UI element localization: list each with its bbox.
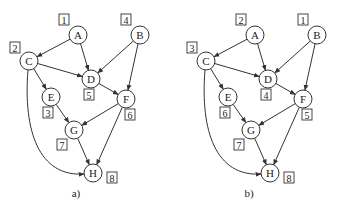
node-E: E [219, 88, 237, 106]
order-badge-D: 4 [261, 89, 271, 101]
panel-b: A2B1C3D4E6F5G7H8b) [187, 14, 326, 200]
order-badge-G: 7 [234, 139, 244, 151]
edge-B-D [275, 41, 311, 73]
edge-F-G [82, 104, 119, 126]
order-number: 8 [287, 173, 292, 184]
order-badge-G: 7 [57, 139, 67, 151]
order-badge-F: 5 [302, 109, 312, 121]
order-number: 1 [62, 15, 67, 26]
order-badge-B: 4 [121, 14, 131, 26]
order-number: 3 [190, 43, 195, 54]
node-label: F [123, 93, 129, 105]
order-badge-B: 1 [298, 14, 308, 26]
edge-A-D [258, 44, 266, 71]
node-B: B [131, 26, 149, 44]
order-number: 7 [237, 140, 242, 151]
edge-F-H [274, 107, 300, 165]
edge-E-G [56, 104, 69, 122]
order-number: 8 [110, 173, 115, 184]
node-C: C [20, 52, 38, 70]
edge-A-C [37, 39, 70, 57]
node-F: F [117, 90, 135, 108]
order-badge-A: 1 [59, 14, 69, 26]
edge-A-D [81, 44, 89, 71]
node-B: B [308, 26, 326, 44]
edge-G-H [255, 138, 267, 165]
node-label: F [300, 93, 306, 105]
order-number: 6 [128, 110, 133, 121]
node-label: C [25, 55, 32, 67]
node-label: G [247, 124, 255, 136]
node-label: E [225, 91, 232, 103]
node-A: A [246, 26, 264, 44]
order-badge-C: 3 [187, 42, 197, 54]
order-badge-E: 3 [43, 107, 53, 119]
panel-a: A1B4C2D5E3F6G7H8a) [10, 14, 149, 200]
node-label: C [202, 55, 209, 67]
node-label: D [87, 73, 95, 85]
order-badge-C: 2 [10, 42, 20, 54]
order-badge-D: 5 [84, 89, 94, 101]
node-label: A [251, 29, 259, 41]
edge-A-C [214, 39, 247, 57]
order-number: 2 [239, 15, 244, 26]
node-H: H [261, 164, 279, 182]
panel-caption: a) [72, 187, 81, 200]
order-number: 1 [301, 15, 306, 26]
edge-E-G [233, 104, 246, 122]
order-badge-F: 6 [125, 109, 135, 121]
diagram-canvas: A1B4C2D5E3F6G7H8a) A2B1C3D4E6F5G7H8b) [0, 0, 337, 212]
edge-B-D [98, 41, 134, 73]
node-H: H [84, 164, 102, 182]
panel-caption: b) [244, 187, 254, 200]
order-number: 5 [305, 110, 310, 121]
node-label: G [70, 124, 78, 136]
edge-C-E [34, 69, 47, 90]
node-G: G [242, 121, 260, 139]
order-number: 2 [13, 43, 18, 54]
order-badge-H: 8 [107, 172, 117, 184]
order-number: 4 [124, 15, 129, 26]
order-number: 3 [46, 108, 51, 119]
node-label: B [136, 29, 143, 41]
node-label: D [264, 73, 272, 85]
edge-F-G [259, 104, 296, 126]
edge-D-F [276, 83, 295, 94]
node-G: G [65, 121, 83, 139]
node-D: D [259, 70, 277, 88]
node-D: D [82, 70, 100, 88]
node-C: C [197, 52, 215, 70]
edge-C-D [215, 64, 260, 77]
node-label: H [266, 167, 274, 179]
node-F: F [294, 90, 312, 108]
order-number: 7 [60, 140, 65, 151]
order-badge-A: 2 [236, 14, 246, 26]
order-badge-H: 8 [284, 172, 294, 184]
edge-F-H [97, 107, 123, 165]
node-label: A [74, 29, 82, 41]
node-E: E [42, 88, 60, 106]
node-label: E [48, 91, 55, 103]
node-A: A [69, 26, 87, 44]
edge-B-F [128, 44, 138, 90]
order-number: 4 [264, 90, 269, 101]
node-label: H [89, 167, 97, 179]
order-badge-E: 6 [220, 107, 230, 119]
edge-C-D [38, 64, 83, 77]
node-label: B [313, 29, 320, 41]
edge-B-F [305, 44, 315, 90]
order-number: 6 [223, 108, 228, 119]
order-number: 5 [87, 90, 92, 101]
edge-G-H [78, 138, 90, 165]
edge-C-E [211, 69, 224, 90]
edge-D-F [99, 83, 118, 94]
